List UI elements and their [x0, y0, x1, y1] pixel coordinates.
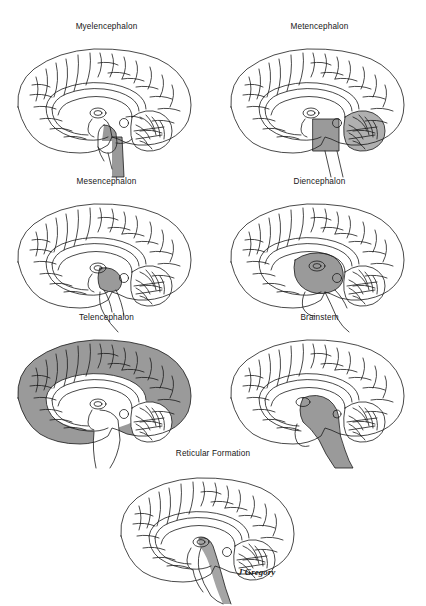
brain-diagram-metencephalon — [213, 33, 426, 177]
panel-title: Reticular Formation — [93, 449, 333, 458]
panel-telencephalon[interactable]: Telencephalon — [0, 313, 213, 468]
panel-title: Telencephalon — [0, 313, 213, 322]
panel-reticular-formation[interactable]: Reticular Formation — [93, 449, 333, 606]
artist-signature: J Gregory — [238, 567, 275, 577]
brain-outline — [18, 49, 191, 177]
brain-diagram-diencephalon — [213, 188, 426, 332]
figure-sheet: Myelencephalon — [0, 0, 426, 606]
panel-brainstem[interactable]: Brainstem — [213, 313, 426, 468]
brain-diagram-brainstem — [213, 324, 426, 468]
brain-outline — [231, 49, 404, 177]
panel-mesencephalon[interactable]: Mesencephalon — [0, 177, 213, 332]
brain-diagram-myelencephalon — [0, 33, 213, 177]
panel-title: Brainstem — [213, 313, 426, 322]
brain-shading — [98, 268, 122, 292]
panel-diencephalon[interactable]: Diencephalon — [213, 177, 426, 332]
panel-metencephalon[interactable]: Metencephalon — [213, 22, 426, 177]
panel-title: Mesencephalon — [0, 177, 213, 186]
brain-diagram-reticular-formation — [93, 460, 333, 606]
panel-title: Diencephalon — [213, 177, 426, 186]
brain-diagram-mesencephalon — [0, 188, 213, 332]
brain-diagram-telencephalon — [0, 324, 213, 468]
panel-title: Metencephalon — [213, 22, 426, 31]
panel-title: Myelencephalon — [0, 22, 213, 31]
panel-myelencephalon[interactable]: Myelencephalon — [0, 22, 213, 177]
